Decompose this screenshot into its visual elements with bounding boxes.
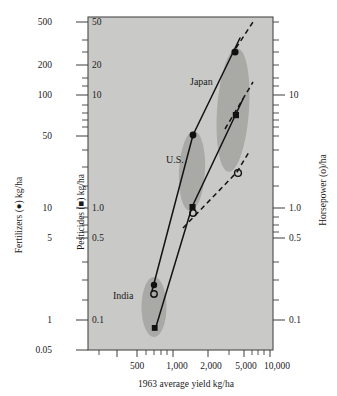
- x-tick-labels: 500 1,000 2,000 5,000 10,000: [130, 361, 290, 371]
- point-india-pesticides: [152, 325, 158, 331]
- x-tick-500: 500: [130, 361, 145, 371]
- pest-tick-50: 50: [92, 17, 102, 27]
- hp-tick-1: 1.0: [289, 203, 301, 213]
- fert-tick-500: 500: [38, 17, 53, 27]
- right-axis-title: Horsepower (o)/ha: [318, 153, 329, 225]
- point-india-fertilizers: [151, 282, 157, 288]
- fert-tick-1: 1: [47, 315, 52, 325]
- fert-tick-200: 200: [38, 60, 53, 70]
- label-us: U.S.: [166, 154, 184, 165]
- label-japan: Japan: [190, 76, 213, 87]
- point-us-fertilizers: [190, 132, 197, 139]
- hp-tick-10: 10: [289, 90, 299, 100]
- x-tick-5000: 5,000: [235, 361, 257, 371]
- fertilizer-tick-labels: 500 200 100 50 10 5 1: [38, 17, 53, 325]
- x-axis-ticks: [99, 350, 270, 357]
- fert-tick-10: 10: [43, 203, 53, 213]
- pest-tick-20: 20: [92, 60, 102, 70]
- hp-tick-05: 0.5: [289, 233, 301, 243]
- x-tick-1000: 1,000: [166, 361, 188, 371]
- pest-tick-005: 0.05: [35, 345, 52, 355]
- chart-figure: 500 200 100 50 10 5 1 50 20 10 1.0 0.5 0…: [0, 0, 337, 396]
- pest-tick-1: 1.0: [92, 203, 104, 213]
- fert-tick-5: 5: [47, 233, 52, 243]
- point-us-pesticides: [190, 204, 196, 210]
- right-axis-ticks: [273, 22, 285, 320]
- left-axis-title: Fertilizers (●) kg/ha: [14, 176, 25, 253]
- fert-tick-50: 50: [43, 131, 53, 141]
- x-axis-title: 1963 average yield kg/ha: [138, 379, 235, 389]
- point-japan-fertilizers: [231, 48, 238, 55]
- pest-tick-10: 10: [92, 90, 102, 100]
- pest-tick-01: 0.1: [92, 315, 104, 325]
- point-japan-pesticides: [233, 112, 239, 118]
- x-tick-10000: 10,000: [264, 361, 290, 371]
- x-tick-2000: 2,000: [200, 361, 222, 371]
- hp-tick-01: 0.1: [289, 315, 301, 325]
- fert-tick-100: 100: [38, 90, 53, 100]
- label-india: India: [113, 290, 134, 301]
- horsepower-tick-labels: 10 1.0 0.5 0.1: [289, 90, 301, 325]
- inner-axis-title: Pesticides (■) kg/ha: [76, 173, 87, 250]
- pest-tick-05: 0.5: [92, 233, 104, 243]
